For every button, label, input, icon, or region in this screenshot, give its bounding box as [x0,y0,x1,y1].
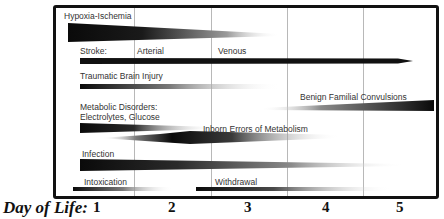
axis-tick-day-3: 3 [244,199,252,216]
bar-withdrawal [196,187,391,192]
bar-traumatic-brain-injury [80,84,280,90]
bar-hypoxia-ischemia [68,23,280,43]
bar-infection [80,159,405,172]
label-infection: Infection [82,149,114,159]
axis-tick-day-4: 4 [322,199,330,216]
label-stroke-arterial: Arterial [137,46,164,56]
axis-tick-day-1: 1 [93,199,101,216]
axis-tick-day-5: 5 [396,199,404,216]
label-hypoxia-ischemia: Hypoxia-Ischemia [64,11,132,21]
label-stroke-venous: Venous [218,46,246,56]
label-metabolic-disorders: Metabolic Disorders: [80,102,157,112]
label-stroke: Stroke: [80,46,107,56]
arrow-stroke [80,57,414,65]
bar-benign-familial-convulsions [260,100,435,111]
bar-intoxication [73,187,173,192]
label-intoxication: Intoxication [84,177,127,187]
axis-tick-day-2: 2 [168,199,176,216]
label-withdrawal: Withdrawal [215,177,257,187]
label-metabolic-disorders-detail: Electrolytes, Glucose [80,112,160,122]
bar-inborn-errors [100,131,340,145]
axis-label-day-of-life: Day of Life: [3,198,88,218]
label-traumatic-brain-injury: Traumatic Brain Injury [80,71,163,81]
